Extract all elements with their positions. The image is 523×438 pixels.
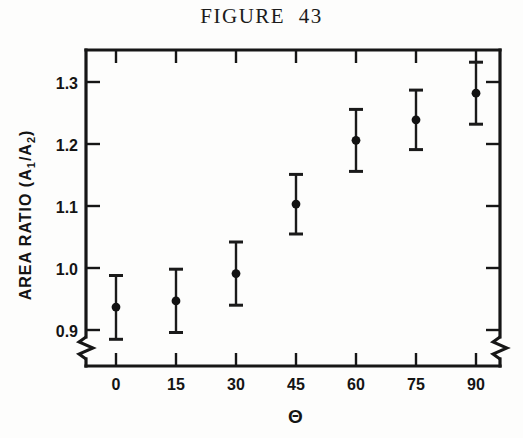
- x-axis-title: Θ: [288, 406, 304, 427]
- chart-plot-area: 1.3 1.2 1.1 1.0 0.9 AREA RATIO (A1/A2): [0, 0, 523, 438]
- data-point-30: [232, 269, 241, 278]
- axis-break-left-icon: [79, 337, 93, 359]
- data-point-75: [412, 115, 421, 124]
- data-point-group-15: [169, 269, 183, 332]
- axis-break-right-icon: [493, 337, 507, 359]
- y-axis-title-sub2: 2: [25, 136, 37, 143]
- data-point-45: [292, 200, 301, 209]
- x-tick-label-90: 90: [467, 376, 485, 393]
- y-axis-title-sub1: 1: [25, 161, 37, 168]
- x-tick-label-0: 0: [112, 376, 121, 393]
- y-axis-title-slash: /A: [17, 143, 34, 161]
- axis-break-marks: [79, 337, 507, 359]
- y-axis-title: AREA RATIO (A1/A2): [17, 130, 37, 301]
- data-point-group-75: [409, 90, 423, 150]
- y-tick-label-0.9: 0.9: [56, 323, 78, 340]
- y-tick-label-1.2: 1.2: [56, 137, 78, 154]
- data-point-group-0: [109, 276, 123, 340]
- y-axis-tick-labels: 1.3 1.2 1.1 1.0 0.9: [56, 75, 78, 340]
- data-point-15: [172, 297, 181, 306]
- data-point-group-45: [289, 174, 303, 234]
- y-axis-title-main: AREA RATIO (A: [17, 168, 34, 300]
- data-series: [109, 62, 483, 339]
- x-tick-label-75: 75: [407, 376, 425, 393]
- data-point-60: [352, 136, 361, 145]
- data-point-0: [112, 303, 121, 312]
- figure-container: FIGURE 43: [0, 0, 523, 438]
- data-point-group-90: [469, 62, 483, 124]
- x-tick-label-15: 15: [167, 376, 185, 393]
- y-tick-label-1.3: 1.3: [56, 75, 78, 92]
- y-axis-title-close: ): [17, 130, 34, 136]
- x-tick-label-30: 30: [227, 376, 245, 393]
- y-tick-label-1.0: 1.0: [56, 261, 78, 278]
- y-tick-label-1.1: 1.1: [56, 199, 78, 216]
- data-point-90: [472, 89, 481, 98]
- x-axis-tick-labels: 0 15 30 45 60 75 90: [112, 376, 485, 393]
- x-tick-label-60: 60: [347, 376, 365, 393]
- svg-text:AREA RATIO (A1/A2): AREA RATIO (A1/A2): [17, 130, 37, 301]
- x-tick-label-45: 45: [287, 376, 305, 393]
- data-point-group-60: [349, 109, 363, 171]
- data-point-group-30: [229, 242, 243, 305]
- plot-frame: [86, 50, 500, 366]
